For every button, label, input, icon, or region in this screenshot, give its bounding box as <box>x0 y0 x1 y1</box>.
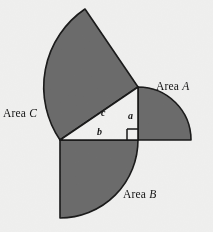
label-area-c: Area C <box>3 107 37 119</box>
label-area-a-letter: A <box>182 80 189 92</box>
label-area-b-prefix: Area <box>123 188 149 200</box>
label-area-a: Area A <box>156 80 189 92</box>
label-area-a-prefix: Area <box>156 80 182 92</box>
label-side-a: a <box>128 110 133 121</box>
label-area-b-letter: B <box>149 188 156 200</box>
label-area-b: Area B <box>123 188 156 200</box>
label-side-b: b <box>97 126 102 137</box>
label-area-c-prefix: Area <box>3 107 29 119</box>
label-area-c-letter: C <box>29 107 37 119</box>
pythagorean-area-figure: Area A Area C Area B a b c <box>0 0 213 232</box>
label-side-c: c <box>101 107 105 118</box>
